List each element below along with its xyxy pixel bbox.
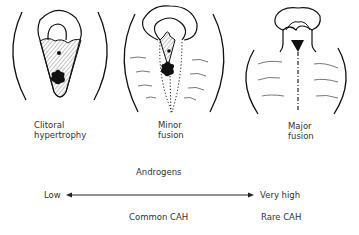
scale-low-label: Low: [44, 190, 61, 200]
common-cah-label: Common CAH: [129, 212, 188, 222]
androgen-scale-arrow: [66, 193, 254, 198]
scale-title: Androgens: [136, 167, 182, 177]
panel-label-minor-fusion: Minor fusion: [158, 120, 184, 140]
panel-label-clitoral-hypertrophy: Clitoral hypertrophy: [34, 120, 86, 140]
minor-fusion-drawing: [124, 6, 224, 114]
scale-high-label: Very high: [260, 190, 300, 200]
panel-label-major-fusion: Major fusion: [288, 121, 314, 141]
rare-cah-label: Rare CAH: [261, 212, 301, 222]
major-fusion-drawing: [246, 8, 346, 114]
clitoral-hypertrophy-drawing: [13, 10, 107, 100]
